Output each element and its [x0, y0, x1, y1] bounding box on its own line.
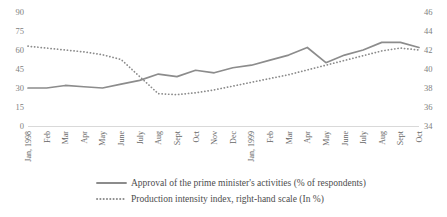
chart-container: 0153045607590 34363840424446 Jan, 1998Fe… — [0, 0, 447, 217]
chart-legend: Approval of the prime minister's activit… — [97, 178, 366, 205]
x-axis-tick-label: July — [359, 131, 368, 144]
series-line-approval — [28, 42, 419, 88]
x-axis-tick-label: Aug — [378, 131, 387, 145]
x-axis-tick-label: Aug — [154, 131, 163, 145]
x-axis-tick-label: Jan, 1998 — [24, 131, 33, 162]
x-axis-tick-label: Dec — [229, 131, 238, 144]
x-axis-tick-label: Nov — [210, 131, 219, 145]
right-axis-tick-label: 36 — [424, 102, 433, 112]
x-axis-tick-label: July — [136, 131, 145, 144]
legend-item-label: Approval of the prime minister's activit… — [131, 178, 366, 189]
right-axis-tick-label: 40 — [424, 64, 433, 74]
left-axis-tick-group: 0153045607590 — [16, 7, 25, 131]
x-axis-tick-label: Sept — [173, 130, 182, 145]
left-axis-tick-label: 60 — [16, 45, 25, 55]
x-axis-tick-label: Apr — [303, 131, 312, 144]
x-axis-tick-label: Apr — [80, 131, 89, 144]
right-axis-tick-label: 34 — [424, 121, 433, 131]
x-axis-tick-label: June — [117, 131, 126, 146]
x-axis-tick-label: Jan, 1999 — [247, 131, 256, 162]
x-axis-tick-label: Oct — [415, 130, 424, 142]
right-axis-tick-label: 42 — [424, 45, 433, 55]
x-axis-tick-label: Feb — [266, 131, 275, 143]
legend-item-label: Production intensity index, right-hand s… — [131, 194, 324, 205]
x-axis-tick-label: Feb — [43, 131, 52, 143]
left-axis-tick-label: 45 — [16, 64, 25, 74]
right-axis-tick-label: 46 — [424, 7, 433, 17]
right-axis-tick-label: 38 — [424, 83, 433, 93]
right-axis-tick-label: 44 — [424, 26, 433, 36]
x-axis-tick-label: Mar — [61, 131, 70, 145]
left-axis-tick-label: 0 — [20, 121, 24, 131]
x-axis-tick-label: May — [98, 131, 107, 146]
chart-plot-svg: 0153045607590 34363840424446 Jan, 1998Fe… — [0, 0, 447, 217]
left-axis-tick-label: 30 — [16, 83, 25, 93]
left-axis-tick-label: 90 — [16, 7, 25, 17]
x-axis-tick-label: Sept — [396, 130, 405, 145]
x-axis-tick-group: Jan, 1998FebMarAprMayJuneJulyAugSeptOctN… — [24, 130, 424, 161]
left-axis-tick-label: 15 — [16, 102, 25, 112]
x-axis-tick-label: Mar — [285, 131, 294, 145]
x-axis-tick-label: May — [322, 131, 331, 146]
x-axis-tick-label: Oct — [192, 130, 201, 142]
left-axis-tick-label: 75 — [16, 26, 25, 36]
x-axis-tick-label: June — [341, 131, 350, 146]
right-axis-tick-group: 34363840424446 — [424, 7, 433, 131]
